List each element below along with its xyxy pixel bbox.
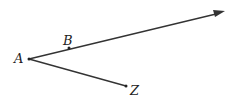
point-a — [28, 58, 31, 61]
label-b: B — [62, 33, 73, 48]
arrowhead-icon — [213, 10, 225, 17]
segment-az — [29, 59, 126, 86]
geometry-diagram: A B Z — [0, 0, 233, 101]
label-z: Z — [129, 83, 140, 98]
point-z — [125, 85, 128, 88]
label-a: A — [13, 51, 23, 66]
ray-ab — [29, 14, 216, 59]
